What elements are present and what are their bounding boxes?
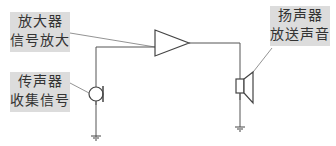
speaker-icon	[236, 72, 253, 103]
amplifier-label-line1: 放大器	[10, 12, 70, 31]
amplifier-icon	[155, 30, 189, 56]
amplifier-label-line2: 信号放大	[10, 31, 70, 50]
microphone-label-line2: 收集信号	[10, 91, 70, 110]
microphone-label: 传声器 收集信号	[10, 72, 70, 112]
output-wire	[189, 43, 240, 100]
speaker-label-line1: 扬声器	[270, 6, 330, 25]
ground-icon	[235, 127, 245, 131]
microphone-icon	[89, 86, 103, 102]
microphone-leader-line	[70, 83, 89, 93]
input-wire	[96, 47, 155, 105]
speaker-label-line2: 放送声音	[270, 25, 330, 44]
amplifier-leader-line	[70, 33, 155, 47]
microphone-label-line1: 传声器	[10, 72, 70, 91]
amplifier-label: 放大器 信号放大	[10, 12, 70, 52]
speaker-label: 扬声器 放送声音	[270, 6, 330, 46]
